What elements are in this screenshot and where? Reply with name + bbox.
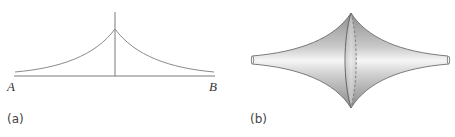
panel-a: A B (a) [6,12,217,126]
panel-b: (b) [250,13,450,126]
left-end-cap [251,56,253,64]
right-end-cap [447,56,449,64]
panel-a-label: (a) [7,112,24,126]
figure: A B (a) (b) [0,0,455,137]
point-b-label: B [209,79,217,94]
panel-b-label: (b) [250,112,267,126]
point-a-label: A [6,79,15,94]
